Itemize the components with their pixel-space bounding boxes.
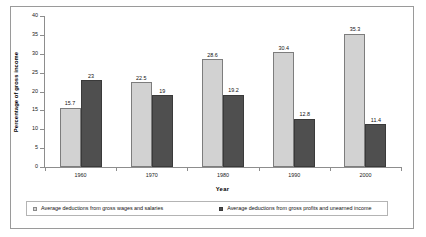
y-axis-title: Percentage of gross income: [13, 52, 19, 132]
plot-area: 0510152025303540 15.723196022.519197028.…: [44, 16, 401, 168]
bar-slot: 11.4: [365, 16, 386, 167]
x-axis-tick-label: 2000: [359, 173, 371, 178]
bar-value-label: 22.5: [136, 76, 147, 81]
bar-series-2-1970[interactable]: 19: [152, 95, 173, 167]
bar-value-label: 23: [88, 74, 94, 79]
y-axis-tick-label: 15: [32, 108, 38, 113]
bar-slot: 19.2: [223, 16, 244, 167]
bar-series-1-1980[interactable]: 28.6: [202, 59, 223, 167]
x-axis-tick-label: 1990: [288, 173, 300, 178]
x-axis-tick-mark: [45, 167, 46, 171]
bar-series-2-1960[interactable]: 23: [81, 80, 102, 167]
bar-value-label: 19: [159, 89, 165, 94]
y-axis-tick-label: 30: [32, 51, 38, 56]
y-axis-tick-label: 10: [32, 127, 38, 132]
y-axis-tick-label: 5: [35, 145, 38, 150]
y-axis-tick-label: 35: [32, 32, 38, 37]
x-axis-tick-label: 1970: [146, 173, 158, 178]
bar-value-label: 12.8: [299, 112, 310, 117]
legend-item-series-1: Average deductions from gross wages and …: [33, 206, 163, 211]
bar-slot: 35.3: [344, 16, 365, 167]
bar-slot: 19: [152, 16, 173, 167]
bar-series-1-1990[interactable]: 30.4: [273, 52, 294, 167]
bar-group: 28.619.21980: [187, 16, 258, 167]
bar-group: 35.311.42000: [330, 16, 401, 167]
chart-legend: Average deductions from gross wages and …: [26, 201, 388, 216]
x-axis-tick-mark: [187, 167, 188, 171]
bar-value-label: 11.4: [371, 118, 381, 123]
bar-series-1-1970[interactable]: 22.5: [131, 82, 152, 167]
x-axis-tick-label: 1960: [75, 173, 87, 178]
chart-frame: Percentage of gross income 0510152025303…: [10, 6, 414, 229]
bar-series-2-2000[interactable]: 11.4: [365, 124, 386, 167]
y-axis-tick-label: 40: [32, 13, 38, 18]
y-axis-tick-label: 25: [32, 70, 38, 75]
bar-series-2-1990[interactable]: 12.8: [294, 119, 315, 167]
legend-label-series-2: Average deductions from gross profits an…: [227, 206, 371, 211]
bar-slot: 12.8: [294, 16, 315, 167]
legend-item-series-2: Average deductions from gross profits an…: [219, 206, 371, 211]
bar-value-label: 35.3: [350, 27, 361, 32]
x-axis-tick-mark: [401, 167, 402, 171]
bar-group: 15.7231960: [45, 16, 116, 167]
bar-series-1-1960[interactable]: 15.7: [60, 108, 81, 167]
bar-value-label: 28.6: [207, 53, 218, 58]
bar-group: 22.5191970: [116, 16, 187, 167]
x-axis-title: Year: [44, 186, 401, 192]
legend-swatch-icon-series-1: [33, 207, 37, 211]
bar-value-label: 30.4: [278, 46, 289, 51]
bar-groups: 15.723196022.519197028.619.2198030.412.8…: [45, 16, 401, 167]
y-axis-tick-label: 20: [32, 89, 38, 94]
bar-group: 30.412.81990: [259, 16, 330, 167]
x-axis-tick-label: 1980: [217, 173, 229, 178]
bar-slot: 28.6: [202, 16, 223, 167]
x-axis-tick-mark: [259, 167, 260, 171]
x-axis-tick-mark: [116, 167, 117, 171]
bar-series-1-2000[interactable]: 35.3: [344, 34, 365, 167]
bar-slot: 30.4: [273, 16, 294, 167]
plot-wrapper: Percentage of gross income 0510152025303…: [44, 16, 401, 168]
legend-label-series-1: Average deductions from gross wages and …: [41, 206, 163, 211]
x-axis-tick-mark: [330, 167, 331, 171]
bar-series-2-1980[interactable]: 19.2: [223, 95, 244, 167]
bar-slot: 22.5: [131, 16, 152, 167]
bar-slot: 15.7: [60, 16, 81, 167]
bar-value-label: 19.2: [228, 88, 239, 93]
bar-slot: 23: [81, 16, 102, 167]
bar-value-label: 15.7: [65, 101, 76, 106]
legend-swatch-icon-series-2: [219, 207, 223, 211]
y-axis-tick-label: 0: [35, 164, 38, 169]
